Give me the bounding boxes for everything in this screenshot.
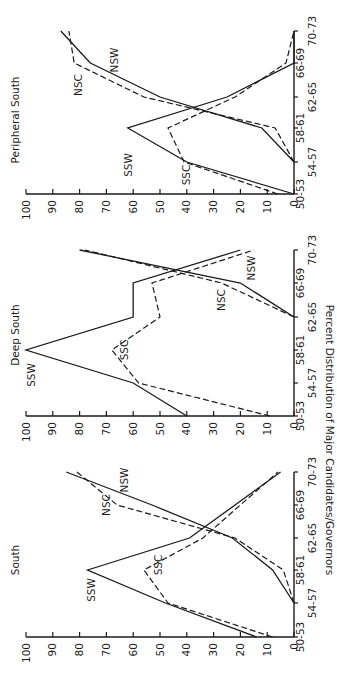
period-tick-label: 50-53 (294, 179, 306, 210)
series-label-ssc: SSC (118, 340, 130, 361)
series-line-nsw (61, 31, 294, 162)
period-tick-label: 66-69 (294, 48, 306, 79)
percent-tick-label: 70 (100, 200, 112, 213)
series-line-ssc (144, 472, 278, 637)
period-tick-label: 54-57 (306, 368, 318, 399)
series-line-ssw (88, 472, 281, 637)
percent-tick-label: 60 (127, 200, 139, 213)
panel-title: Peripheral South (9, 77, 21, 164)
percent-tick-label: 20 (234, 422, 246, 435)
period-tick-label: 62-65 (306, 302, 318, 333)
panel-title: South (9, 545, 21, 576)
series-label-nsc: NSC (215, 289, 227, 311)
percent-tick-label: 30 (207, 422, 219, 435)
percent-tick-label: 90 (46, 200, 58, 213)
period-tick-label: 58-61 (294, 113, 306, 144)
percent-tick-label: 60 (127, 643, 139, 656)
series-label-ssw: SSW (25, 363, 37, 387)
y-axis-label: Percent Distribution of Major Candidates… (324, 305, 336, 575)
percent-tick-label: 90 (46, 422, 58, 435)
series-label-nsw: NSW (118, 467, 130, 493)
figure: Percent Distribution of Major Candidates… (0, 0, 337, 687)
percent-tick-label: 50 (154, 643, 166, 656)
percent-tick-label: 50 (154, 422, 166, 435)
period-tick-label: 50-53 (294, 401, 306, 432)
period-tick-label: 66-69 (294, 268, 306, 299)
series-label-ssw: SSW (122, 153, 134, 177)
percent-tick-label: 60 (127, 422, 139, 435)
percent-tick-label: 40 (180, 200, 192, 213)
percent-tick-label: 30 (207, 200, 219, 213)
percent-tick-label: 100 (20, 200, 32, 220)
series-line-nsc (69, 31, 294, 162)
series-label-ssw: SSW (85, 578, 97, 602)
percent-tick-label: 100 (20, 643, 32, 663)
series-label-ssc: SSC (180, 165, 192, 186)
period-tick-label: 70-73 (306, 457, 318, 488)
percent-tick-label: 40 (180, 422, 192, 435)
series-line-nsc (77, 472, 294, 603)
series-line-nsw (80, 250, 294, 317)
period-tick-label: 70-73 (306, 16, 318, 47)
percent-tick-label: 20 (234, 200, 246, 213)
percent-tick-label: 80 (73, 643, 85, 656)
period-tick-label: 50-53 (294, 622, 306, 653)
period-tick-label: 62-65 (306, 82, 318, 113)
percent-tick-label: 10 (261, 200, 273, 213)
percent-tick-label: 40 (180, 643, 192, 656)
series-line-ssw (26, 250, 240, 416)
period-tick-label: 62-65 (306, 523, 318, 554)
percent-tick-label: 80 (73, 422, 85, 435)
percent-tick-label: 10 (261, 422, 273, 435)
panel-deep-south: 010203040506070809010050-5354-5758-6162-… (9, 235, 318, 442)
panel-title: Deep South (9, 304, 21, 366)
series-label-nsc: NSC (100, 494, 112, 516)
series-label-nsc: NSC (72, 74, 84, 96)
percent-tick-label: 70 (100, 643, 112, 656)
percent-tick-label: 70 (100, 422, 112, 435)
percent-tick-label: 100 (20, 422, 32, 442)
percent-tick-label: 50 (154, 200, 166, 213)
panel-south: 010203040506070809010050-5354-5758-6162-… (9, 457, 318, 663)
percent-tick-label: 80 (73, 200, 85, 213)
percent-tick-label: 10 (261, 643, 273, 656)
percent-tick-label: 90 (46, 643, 58, 656)
period-tick-label: 54-57 (306, 147, 318, 178)
period-tick-label: 54-57 (306, 588, 318, 619)
period-tick-label: 58-61 (294, 555, 306, 586)
panel-peripheral-south: 010203040506070809010050-5354-5758-6162-… (9, 16, 318, 220)
percent-tick-label: 30 (207, 643, 219, 656)
series-label-nsw: NSW (108, 47, 120, 73)
period-tick-label: 70-73 (306, 235, 318, 266)
series-line-nsc (85, 250, 294, 317)
series-label-ssc: SSC (152, 555, 164, 576)
percent-tick-label: 20 (234, 643, 246, 656)
period-tick-label: 66-69 (294, 490, 306, 521)
series-label-nsw: NSW (245, 255, 257, 281)
period-tick-label: 58-61 (294, 335, 306, 366)
